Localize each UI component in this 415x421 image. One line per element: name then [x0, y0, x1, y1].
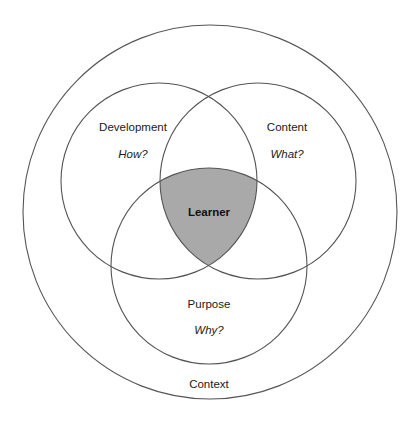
context-label: Context [189, 378, 229, 390]
content-label: Content [267, 121, 308, 133]
development-label: Development [99, 121, 168, 133]
development-question: How? [118, 148, 148, 160]
learner-venn-diagram: Development How? Content What? Learner P… [0, 0, 415, 421]
content-question: What? [270, 148, 304, 160]
learner-label: Learner [188, 206, 231, 218]
purpose-label: Purpose [188, 298, 231, 310]
purpose-question: Why? [194, 324, 224, 336]
